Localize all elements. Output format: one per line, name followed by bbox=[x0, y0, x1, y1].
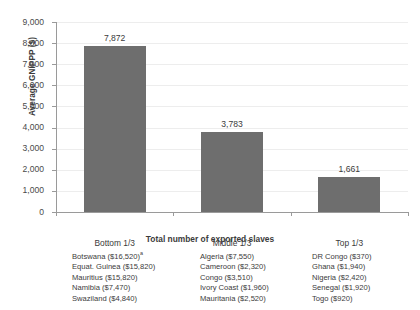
legend-entry: Congo ($3,510) bbox=[200, 273, 269, 283]
legend-entry: DR Congo ($370) bbox=[312, 252, 372, 262]
chart-figure: Average GNIPPP ($) 01,0002,0003,0004,000… bbox=[0, 0, 420, 310]
legend-entry: Ghana ($1,940) bbox=[312, 262, 372, 272]
y-axis-tick-label: 5,000 bbox=[0, 101, 44, 111]
gridline bbox=[56, 43, 408, 44]
x-axis-line bbox=[56, 212, 408, 213]
legend-entry: Ivory Coast ($1,960) bbox=[200, 283, 269, 293]
legend-entry: Mauritania ($2,520) bbox=[200, 294, 269, 304]
y-axis-tick-label: 0 bbox=[0, 207, 44, 217]
legend-entry: Equat. Guinea ($15,820) bbox=[72, 262, 155, 272]
y-axis-tick-label: 4,000 bbox=[0, 122, 44, 132]
x-axis-tick bbox=[56, 212, 57, 216]
bar[interactable] bbox=[84, 46, 146, 212]
x-axis-tick bbox=[408, 212, 409, 216]
y-axis-tick-label: 7,000 bbox=[0, 59, 44, 69]
legend-entry: Swaziland ($4,840) bbox=[72, 294, 155, 304]
y-axis-tick-label: 1,000 bbox=[0, 185, 44, 195]
bar[interactable] bbox=[318, 177, 380, 212]
legend-entry: Nigeria ($2,420) bbox=[312, 273, 372, 283]
bar-value-label: 7,872 bbox=[75, 33, 155, 43]
legend-entry: Algeria ($7,550) bbox=[200, 252, 269, 262]
legend-column: DR Congo ($370)Ghana ($1,940)Nigeria ($2… bbox=[312, 252, 372, 304]
y-axis-tick-label: 8,000 bbox=[0, 38, 44, 48]
legend-column: Botswana ($16,520)aEquat. Guinea ($15,82… bbox=[72, 252, 155, 304]
x-axis-tick bbox=[291, 212, 292, 216]
legend-entry: Senegal ($1,920) bbox=[312, 283, 372, 293]
legend-entry: Mauritius ($15,820) bbox=[72, 273, 155, 283]
x-axis-tick bbox=[173, 212, 174, 216]
plot-area: 01,0002,0003,0004,0005,0006,0007,0008,00… bbox=[56, 22, 408, 212]
y-axis-line bbox=[56, 22, 57, 212]
country-legend: Botswana ($16,520)aEquat. Guinea ($15,82… bbox=[0, 252, 420, 310]
legend-entry: Botswana ($16,520)a bbox=[72, 252, 155, 262]
legend-column: Algeria ($7,550)Cameroon ($2,320)Congo (… bbox=[200, 252, 269, 304]
footnote-marker: a bbox=[140, 250, 143, 256]
bar-value-label: 3,783 bbox=[192, 119, 272, 129]
gridline bbox=[56, 22, 408, 23]
bar[interactable] bbox=[201, 132, 263, 212]
y-axis-tick-label: 3,000 bbox=[0, 143, 44, 153]
bar-value-label: 1,661 bbox=[309, 164, 389, 174]
legend-entry: Togo ($920) bbox=[312, 294, 372, 304]
y-axis-tick-label: 6,000 bbox=[0, 80, 44, 90]
legend-entry: Cameroon ($2,320) bbox=[200, 262, 269, 272]
y-axis-tick-label: 9,000 bbox=[0, 17, 44, 27]
x-axis-title: Total number of exported slaves bbox=[0, 234, 420, 244]
legend-entry: Namibia ($7,470) bbox=[72, 283, 155, 293]
y-axis-tick-label: 2,000 bbox=[0, 164, 44, 174]
